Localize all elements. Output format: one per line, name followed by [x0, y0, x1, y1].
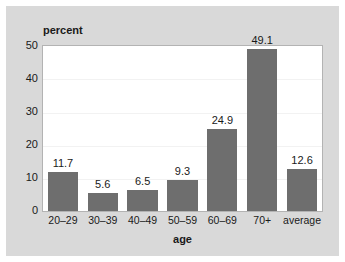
y-tick-label: 0 [8, 205, 38, 216]
y-axis-ticks: 01020304050 [6, 45, 38, 212]
x-tick-label: 60–69 [202, 215, 242, 226]
x-tick-label: average [282, 215, 322, 226]
bar[interactable] [207, 129, 237, 211]
bar[interactable] [167, 180, 197, 211]
x-tick-label: 70+ [242, 215, 282, 226]
y-tick-label: 40 [8, 73, 38, 84]
bar-value-label: 12.6 [282, 155, 322, 166]
bar[interactable] [287, 169, 317, 211]
bar-slot: 9.3 [163, 46, 203, 211]
bar[interactable] [127, 190, 157, 211]
x-tick-label: 50–59 [163, 215, 203, 226]
chart-figure: percent 01020304050 11.75.66.59.324.949.… [6, 6, 339, 256]
bar-slot: 24.9 [202, 46, 242, 211]
bar-slot: 11.7 [43, 46, 83, 211]
bar-slot: 5.6 [83, 46, 123, 211]
bar-slot: 6.5 [123, 46, 163, 211]
y-tick-label: 10 [8, 172, 38, 183]
y-tick-label: 30 [8, 106, 38, 117]
bar-value-label: 9.3 [163, 166, 203, 177]
bar[interactable] [48, 172, 78, 211]
bar-value-label: 6.5 [123, 176, 163, 187]
x-tick-label: 40–49 [123, 215, 163, 226]
bar-value-label: 49.1 [242, 35, 282, 46]
x-tick-label: 20–29 [43, 215, 83, 226]
y-tick-label: 50 [8, 40, 38, 51]
bar[interactable] [247, 49, 277, 211]
bar-series: 11.75.66.59.324.949.112.6 [43, 46, 322, 211]
bar-value-label: 5.6 [83, 179, 123, 190]
y-axis-title: percent [43, 24, 83, 36]
y-tick-label: 20 [8, 139, 38, 150]
x-tick-label: 30–39 [83, 215, 123, 226]
bar-value-label: 24.9 [202, 115, 242, 126]
bar[interactable] [88, 193, 118, 211]
bar-slot: 12.6 [282, 46, 322, 211]
x-axis-title: age [43, 233, 322, 245]
bar-value-label: 11.7 [43, 158, 83, 169]
x-axis-ticks: 20–2930–3940–4950–5960–6970+average [43, 215, 322, 231]
bar-slot: 49.1 [242, 46, 282, 211]
